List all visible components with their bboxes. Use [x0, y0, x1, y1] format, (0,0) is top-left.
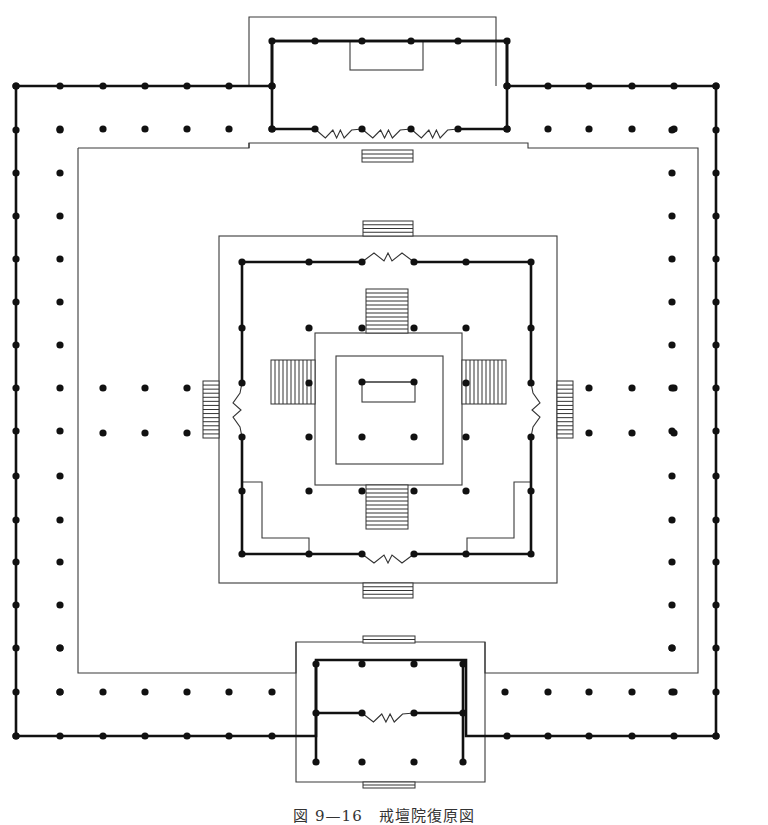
- column-dot: [311, 125, 318, 132]
- column-dot: [668, 472, 675, 479]
- column-dot: [99, 688, 106, 695]
- column-dot: [56, 427, 63, 434]
- column-dot: [305, 550, 312, 557]
- column-dot: [462, 433, 469, 440]
- column-dot: [670, 429, 677, 436]
- column-dot: [712, 341, 719, 348]
- column-dot: [712, 384, 719, 391]
- altar-stair-north: [366, 289, 408, 333]
- altar-stair-south-outline: [366, 485, 408, 529]
- column-dot: [712, 644, 719, 651]
- column-dot: [503, 125, 510, 132]
- column-dot: [225, 125, 232, 132]
- column-dot: [56, 558, 63, 565]
- column-dot: [670, 688, 677, 695]
- column-dot: [585, 125, 592, 132]
- column-dot: [305, 258, 312, 265]
- column-dot: [268, 125, 275, 132]
- door-icon: [411, 129, 458, 138]
- column-dot: [459, 758, 466, 765]
- column-dot: [670, 732, 677, 739]
- column-dot: [141, 688, 148, 695]
- column-dot: [12, 169, 19, 176]
- column-dot: [56, 688, 63, 695]
- column-dot: [12, 732, 19, 739]
- column-dot: [268, 732, 275, 739]
- altar-rect: [362, 382, 415, 402]
- top-gate-altar: [350, 41, 423, 70]
- column-dot: [670, 384, 677, 391]
- column-dot: [56, 601, 63, 608]
- column-dot: [544, 125, 551, 132]
- column-dot: [410, 378, 417, 385]
- column-dot: [12, 427, 19, 434]
- column-dot: [712, 255, 719, 262]
- column-dot: [12, 644, 19, 651]
- column-dot: [628, 688, 635, 695]
- column-dot: [503, 732, 510, 739]
- column-dot: [358, 660, 365, 667]
- main-hall-side-room: [242, 482, 309, 554]
- column-dot: [56, 516, 63, 523]
- main-hall-stair-south: [363, 583, 413, 598]
- column-dot: [312, 660, 319, 667]
- column-dot: [99, 82, 106, 89]
- column-dot: [668, 516, 675, 523]
- column-dot: [544, 688, 551, 695]
- column-dot: [312, 709, 319, 716]
- column-dot: [12, 212, 19, 219]
- column-dot: [358, 550, 365, 557]
- column-dot: [462, 379, 469, 386]
- column-dot: [501, 688, 508, 695]
- top-gate-platform: [249, 17, 496, 86]
- column-dot: [99, 384, 106, 391]
- column-dot: [12, 126, 19, 133]
- column-dot: [268, 37, 275, 44]
- column-dot: [410, 550, 417, 557]
- column-dot: [503, 82, 510, 89]
- door-icon: [531, 383, 540, 437]
- column-dot: [358, 258, 365, 265]
- door-icon: [362, 554, 414, 563]
- altar-stair-south: [366, 485, 408, 529]
- column-dot: [527, 550, 534, 557]
- column-dot: [462, 258, 469, 265]
- top-gate-stair: [362, 150, 413, 162]
- column-dot: [12, 82, 19, 89]
- column-dot: [628, 384, 635, 391]
- outer-corridor-wall: [16, 41, 716, 736]
- column-dot: [585, 688, 592, 695]
- column-dot: [407, 37, 414, 44]
- column-dot: [238, 550, 245, 557]
- door-icon: [362, 129, 411, 138]
- column-dot: [628, 429, 635, 436]
- column-dot: [459, 660, 466, 667]
- main-hall-stair-west: [203, 381, 219, 438]
- column-dot: [305, 487, 312, 494]
- column-dot: [628, 82, 635, 89]
- column-dot: [268, 82, 275, 89]
- column-dot: [358, 378, 365, 385]
- column-dot: [183, 732, 190, 739]
- column-dot: [585, 384, 592, 391]
- column-dot: [238, 258, 245, 265]
- column-dot: [12, 384, 19, 391]
- column-dot: [503, 37, 510, 44]
- column-dot: [712, 558, 719, 565]
- column-dot: [12, 255, 19, 262]
- column-dot: [238, 487, 245, 494]
- column-dot: [712, 688, 719, 695]
- column-dot: [585, 429, 592, 436]
- column-dot: [311, 37, 318, 44]
- column-dot: [312, 758, 319, 765]
- column-dot: [712, 169, 719, 176]
- column-dot: [99, 732, 106, 739]
- column-dot: [12, 516, 19, 523]
- column-dot: [56, 255, 63, 262]
- column-dot: [410, 709, 417, 716]
- column-dot: [358, 758, 365, 765]
- column-dot: [712, 126, 719, 133]
- column-dot: [410, 758, 417, 765]
- altar-platform-inner: [336, 356, 443, 464]
